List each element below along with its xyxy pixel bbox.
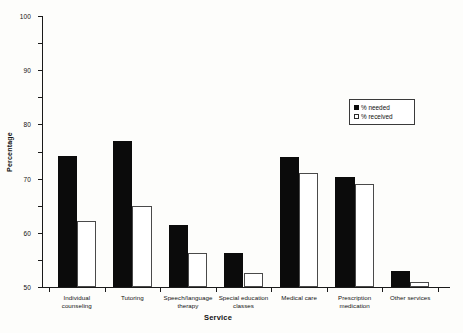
legend-item-received: % received [354, 112, 410, 121]
y-tick: 30 [38, 206, 42, 207]
bar-needed [169, 225, 188, 287]
x-tick [105, 288, 106, 292]
y-tick-label: 100 [20, 13, 31, 20]
x-tick [49, 288, 50, 292]
bar-needed [58, 156, 77, 287]
y-tick-label: 60 [24, 229, 31, 236]
y-tick-label: 80 [24, 121, 31, 128]
y-tick: 70 [38, 97, 42, 98]
bar-chart: Percentage Service 010203040506070809010… [0, 0, 463, 333]
filled-square-icon [354, 105, 359, 110]
y-axis-line [42, 16, 43, 288]
x-axis-title: Service [204, 313, 232, 322]
hollow-square-icon [354, 114, 359, 119]
y-tick-label: 70 [24, 175, 31, 182]
y-tick: 60 [38, 124, 42, 125]
y-axis-title: Percentage [6, 132, 13, 172]
x-category-label-line: Other services [371, 294, 449, 302]
x-tick [438, 288, 439, 292]
x-category-label-line: medication [316, 302, 394, 310]
bar-received [77, 221, 96, 287]
bar-needed [335, 177, 354, 287]
bar-received [188, 253, 207, 287]
x-tick [382, 288, 383, 292]
bar-needed [224, 253, 243, 287]
bar-received [244, 273, 263, 287]
x-tick [216, 288, 217, 292]
bar-needed [280, 157, 299, 287]
legend-item-needed: % needed [354, 103, 410, 112]
x-category-label-line: classes [205, 302, 283, 310]
y-tick: 40 [38, 179, 42, 180]
y-tick: 20 [38, 233, 42, 234]
legend-label-received: % received [361, 112, 393, 121]
y-tick: 80 [38, 70, 42, 71]
bar-received [355, 184, 374, 287]
plot-area: 0102030405060708090100 [42, 16, 450, 288]
y-tick-label: 50 [24, 284, 31, 291]
y-tick: 90 [38, 43, 42, 44]
x-category-label-line: counseling [38, 302, 116, 310]
bar-needed [391, 271, 410, 287]
x-axis-line [42, 287, 450, 288]
x-tick [271, 288, 272, 292]
bar-received [299, 173, 318, 287]
chart-legend: % needed % received [349, 99, 415, 125]
x-tick [160, 288, 161, 292]
y-tick: 50 [38, 152, 42, 153]
y-tick-label: 90 [24, 67, 31, 74]
y-tick: 0 [38, 287, 42, 288]
bar-needed [113, 141, 132, 287]
bar-received [410, 282, 429, 287]
x-category-label: Other services [371, 294, 449, 302]
bar-received [132, 206, 151, 287]
legend-label-needed: % needed [361, 103, 390, 112]
x-tick [327, 288, 328, 292]
y-tick: 10 [38, 260, 42, 261]
y-tick: 100 [38, 16, 42, 17]
